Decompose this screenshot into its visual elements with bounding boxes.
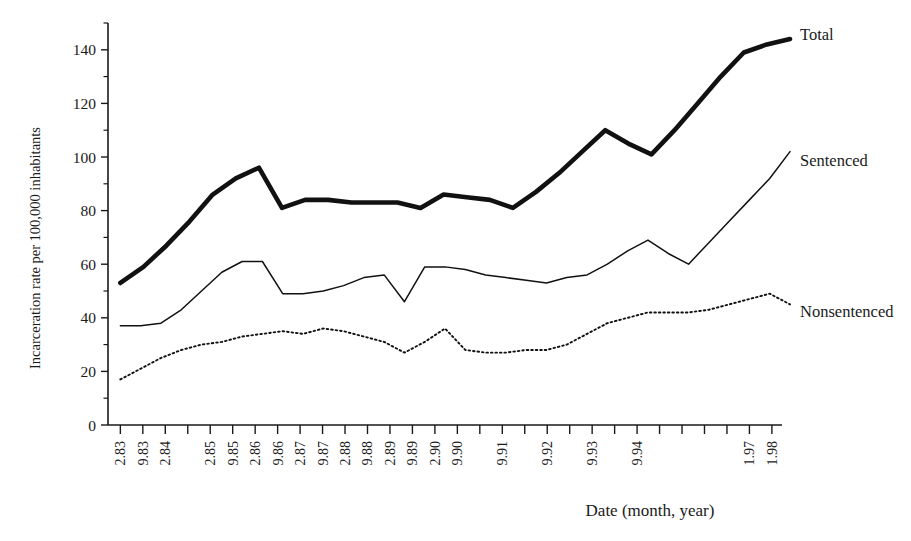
x-tick-label: 2.89 [383,441,398,466]
y-tick-label: 0 [88,417,96,434]
x-tick-label: 2.90 [428,441,443,466]
x-tick-label: 1.97 [742,441,757,466]
y-tick-label: 120 [73,95,97,112]
y-tick-label: 20 [81,363,97,380]
series-label-nonsentenced: Nonsentenced [800,302,894,321]
x-tick-label: 2.83 [113,441,128,466]
x-tick-label: 2.85 [203,441,218,466]
y-tick-label: 140 [73,41,97,58]
series-line-sentenced [120,152,790,326]
x-tick-label: 2.87 [293,441,308,466]
x-tick-label: 2.86 [248,441,263,466]
y-axis-ticks: 020406080100120140 [73,41,108,433]
x-tick-label: 9.91 [495,441,510,466]
x-tick-label: 9.86 [271,441,286,466]
x-tick-label: 9.85 [226,441,241,466]
y-axis-title: Incarceration rate per 100,000 inhabitan… [27,127,43,369]
x-tick-label: 2.88 [338,441,353,466]
chart-figure: Incarceration rate per 100,000 inhabitan… [0,0,911,541]
x-tick-label: 9.88 [360,441,375,466]
x-axis-tick-labels: 2.839.832.842.859.852.869.862.879.872.88… [113,441,780,466]
x-tick-label: 9.94 [630,441,645,466]
x-axis-ticks [120,425,772,434]
series-label-sentenced: Sentenced [800,151,869,170]
series-line-total [120,39,790,283]
x-tick-label: 9.83 [136,441,151,466]
y-tick-label: 60 [81,256,97,273]
x-tick-label: 9.87 [316,441,331,466]
x-tick-label: 9.93 [585,441,600,466]
x-tick-label: 9.92 [540,441,555,466]
series-line-nonsentenced [120,294,790,380]
y-tick-label: 40 [81,309,97,326]
x-tick-label: 1.98 [765,441,780,466]
incarceration-rate-line-chart: Incarceration rate per 100,000 inhabitan… [0,0,911,541]
y-tick-label: 80 [81,202,97,219]
x-axis-title: Date (month, year) [586,501,715,520]
x-tick-label: 2.84 [158,441,173,466]
y-tick-label: 100 [73,149,97,166]
series-label-total: Total [800,25,834,44]
x-tick-label: 9.90 [450,441,465,466]
x-tick-label: 9.89 [405,441,420,466]
